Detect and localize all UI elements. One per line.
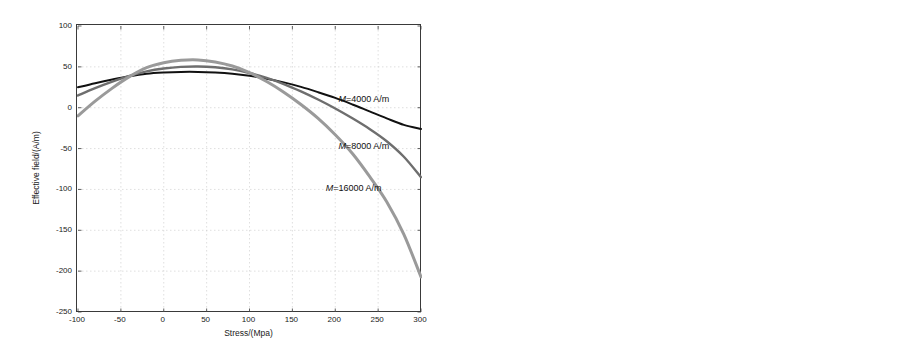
x-tick-label: -50 (114, 315, 126, 324)
y-tick-label: 100 (59, 21, 72, 30)
figure-right-magnetisation: 00.20.40.60.811.21.41.61.82012345678910 … (453, 0, 907, 358)
x-tick-label: 200 (328, 315, 341, 324)
x-tick-label: 150 (285, 315, 298, 324)
y-tick-label: -50 (60, 143, 72, 152)
x-tick-label: -100 (69, 315, 85, 324)
figure-left-effective-field: -100-50050100150200250300-250-200-150-10… (0, 0, 453, 358)
x-tick-label: 50 (201, 315, 210, 324)
y-axis-label-left: Effective field/(A/m) (31, 131, 41, 205)
plot-canvas-left (77, 25, 422, 313)
y-tick-label: -100 (56, 184, 72, 193)
y-tick-label: 0 (68, 102, 72, 111)
x-tick-label: 100 (242, 315, 255, 324)
curve-annotation-0: M=4000 A/m (339, 94, 390, 104)
plot-area-left (76, 24, 421, 312)
x-axis-label-left: Stress/(Mpa) (224, 328, 273, 338)
y-tick-label: -150 (56, 225, 72, 234)
series-line-2 (78, 60, 421, 277)
x-tick-label: 250 (370, 315, 383, 324)
curve-annotation-2: M=16000 A/m (326, 183, 382, 193)
x-tick-label: 0 (161, 315, 165, 324)
y-tick-label: -200 (56, 266, 72, 275)
y-tick-label: 50 (63, 61, 72, 70)
curve-annotation-1: M=8000 A/m (339, 141, 390, 151)
y-tick-label: -250 (56, 307, 72, 316)
x-tick-label: 300 (413, 315, 426, 324)
